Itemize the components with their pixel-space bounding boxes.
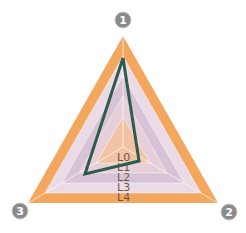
axis-marker-3: 3: [12, 203, 28, 219]
svg-text:1: 1: [119, 14, 127, 27]
radar-chart: L0 L1 L2 L3 L4 1 2 3: [0, 0, 246, 233]
svg-text:2: 2: [225, 206, 233, 219]
axis-marker-1: 1: [115, 12, 131, 28]
axis-marker-2: 2: [221, 204, 237, 220]
level-label-l4: L4: [117, 191, 130, 204]
svg-text:3: 3: [16, 205, 24, 218]
